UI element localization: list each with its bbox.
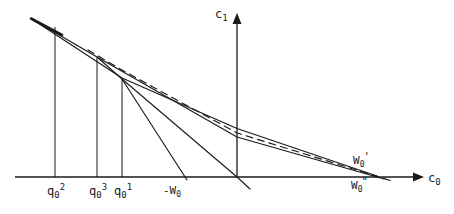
point-label-w0-double-prime-mark: ": [361, 175, 368, 188]
budget-line-steep-to-minus-w0: [97, 57, 187, 180]
y-axis-label: c1: [215, 8, 228, 20]
curve-group: [31, 19, 392, 190]
point-label-w0-double-prime-base: W: [351, 179, 358, 192]
x-axis-label-sub: 0: [435, 177, 440, 187]
tick-label-q0-3-sub: 0: [96, 190, 101, 200]
tick-label-q0-2-sub: 0: [54, 190, 59, 200]
point-label-minus-w0-base: -W: [163, 184, 176, 197]
budget-line-upper-solid: [31, 19, 384, 180]
x-axis-label: c0: [428, 172, 441, 184]
dropline-group: [55, 27, 122, 177]
tick-label-q0-1-sup: 1: [127, 182, 132, 192]
budget-line-from-q0-2-to-w0-prime: [31, 19, 377, 177]
point-label-minus-w0-sub: 0: [176, 190, 181, 199]
budget-line-figure: c1 c0 q02 q03 q01 -W0 W0' W0": [0, 0, 454, 214]
point-label-w0-prime-base: W: [353, 154, 360, 167]
tick-label-q0-3-sup: 3: [102, 182, 107, 192]
point-label-w0-double-prime: W0": [351, 180, 369, 191]
x-axis-arrowhead: [413, 173, 424, 182]
y-axis-arrowhead: [233, 13, 242, 24]
diagram-canvas: [0, 0, 454, 214]
point-label-w0-prime: W0': [353, 155, 371, 166]
tick-label-q0-2-sup: 2: [60, 182, 65, 192]
tick-label-q0-1: q01: [114, 185, 132, 197]
point-label-w0-prime-mark: ': [363, 150, 370, 163]
tick-label-q0-3: q03: [89, 185, 107, 197]
tick-label-q0-2: q02: [47, 185, 65, 197]
y-axis-label-sub: 1: [222, 13, 227, 23]
point-label-minus-w0: -W0: [163, 185, 181, 196]
tick-label-q0-1-sub: 0: [121, 190, 126, 200]
budget-line-dashed: [88, 50, 392, 181]
